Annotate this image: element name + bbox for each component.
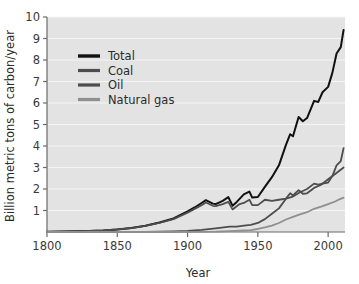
y-tick-label-10: 10 (25, 10, 40, 24)
legend-label-natural-gas: Natural gas (108, 93, 174, 107)
y-tick-label-4: 4 (33, 139, 40, 153)
chart-canvas: 12345678910 18001850190019502000 TotalCo… (0, 0, 359, 284)
y-tick-label-6: 6 (33, 96, 40, 110)
x-tick-label-1950: 1950 (243, 239, 272, 253)
x-axis-title: Year (185, 266, 211, 280)
legend-label-coal: Coal (108, 64, 133, 78)
x-tick-label-1800: 1800 (32, 239, 61, 253)
y-axis-title: Billion metric tons of carbon/year (3, 30, 17, 222)
y-tick-label-1: 1 (33, 204, 40, 218)
legend-label-total: Total (107, 49, 135, 63)
y-tick-label-9: 9 (33, 32, 40, 46)
y-tick-label-2: 2 (33, 182, 40, 196)
y-tick-label-7: 7 (33, 75, 40, 89)
y-tick-label-8: 8 (33, 53, 40, 67)
y-tick-label-3: 3 (33, 161, 40, 175)
x-tick-label-2000: 2000 (313, 239, 342, 253)
y-tick-label-5: 5 (33, 118, 40, 132)
carbon-emissions-chart-figure: 12345678910 18001850190019502000 TotalCo… (0, 0, 359, 284)
x-tick-label-1900: 1900 (173, 239, 202, 253)
x-tick-label-1850: 1850 (103, 239, 132, 253)
legend-label-oil: Oil (108, 78, 123, 92)
